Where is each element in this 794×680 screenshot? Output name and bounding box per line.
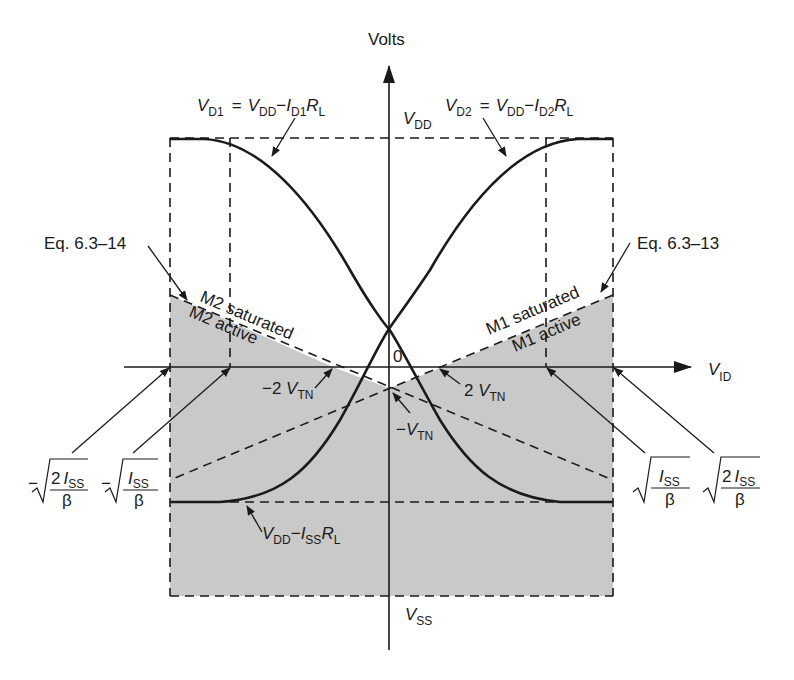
vd2-equation: VD2=VDD−ID2RL	[445, 96, 574, 119]
svg-text:−: −	[28, 474, 38, 493]
eq-6-3-13-leader-arrow	[601, 243, 630, 292]
x-axis-label: VID	[708, 360, 732, 384]
eq-6-3-14-leader-arrow	[148, 246, 187, 300]
vd1-equation: VD1=VDD−ID1RL	[197, 96, 326, 119]
svg-text:2ISS: 2ISS	[51, 469, 84, 491]
svg-text:β: β	[735, 490, 745, 509]
svg-text:β: β	[665, 490, 675, 509]
pos-sqrt-iss-label: ISS β	[633, 457, 690, 509]
svg-text:β: β	[134, 491, 144, 510]
eq-6-3-14-label: Eq. 6.3–14	[44, 234, 126, 253]
svg-text:−: −	[101, 474, 111, 493]
vss-label: VSS	[405, 605, 432, 628]
mosfet-differential-pair-diagram: Volts VID 0 VD1=VDD−ID1RL VD2=VDD−ID2RL …	[0, 0, 794, 680]
svg-text:ISS: ISS	[659, 467, 680, 489]
neg-sqrt-2iss-label: − 2ISS β	[28, 459, 88, 510]
vdd-label: VDD	[403, 109, 432, 132]
pos-sqrt-2iss-label: 2ISS β	[703, 457, 760, 509]
neg-sqrt-2iss-leader-arrow	[72, 368, 169, 453]
vd2-leader-arrow	[483, 118, 506, 156]
svg-text:2ISS: 2ISS	[722, 467, 755, 489]
vd1-leader-arrow	[272, 118, 295, 156]
origin-label: 0	[393, 347, 402, 366]
svg-text:β: β	[62, 491, 72, 510]
y-axis-label: Volts	[368, 30, 405, 49]
eq-6-3-13-label: Eq. 6.3–13	[637, 234, 719, 253]
pos-sqrt-2iss-leader-arrow	[614, 368, 714, 453]
svg-text:ISS: ISS	[128, 469, 149, 491]
neg-sqrt-iss-label: − ISS β	[101, 459, 158, 510]
